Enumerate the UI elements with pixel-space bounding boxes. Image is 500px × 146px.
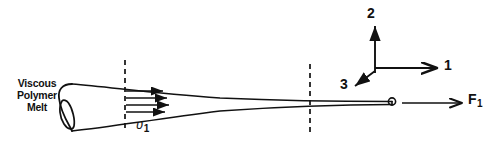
coordinate-axes-triad (355, 26, 437, 86)
melt-label-line-1: Viscous (8, 78, 66, 90)
axis-3-arrow (355, 71, 375, 86)
diagram-canvas (0, 0, 500, 146)
cone-bottom-edge (72, 105, 392, 132)
melt-spinning-diagram: Viscous Polymer Melt υ1 2 1 3 F1 (0, 0, 500, 146)
velocity-profile-arrows (126, 91, 169, 112)
axis-label-1: 1 (444, 58, 452, 74)
axis-label-2: 2 (367, 6, 375, 22)
force-symbol: F (468, 91, 477, 107)
velocity-label: υ1 (136, 118, 149, 134)
melt-label-line-3: Melt (8, 102, 66, 114)
velocity-symbol: υ (136, 117, 143, 132)
axis-label-3: 3 (340, 77, 348, 93)
force-label: F1 (468, 92, 483, 109)
velocity-subscript: 1 (144, 123, 150, 134)
viscous-polymer-melt-label: Viscous Polymer Melt (8, 78, 66, 113)
force-subscript: 1 (477, 98, 483, 109)
melt-label-line-2: Polymer (8, 90, 66, 102)
